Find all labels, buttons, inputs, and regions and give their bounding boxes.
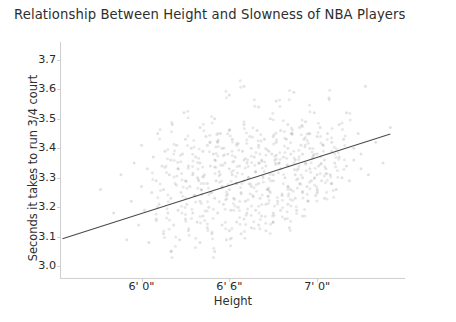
regression-line xyxy=(62,134,390,239)
chart-figure: Relationship Between Height and Slowness… xyxy=(0,0,456,322)
regression-line-layer xyxy=(0,0,456,322)
